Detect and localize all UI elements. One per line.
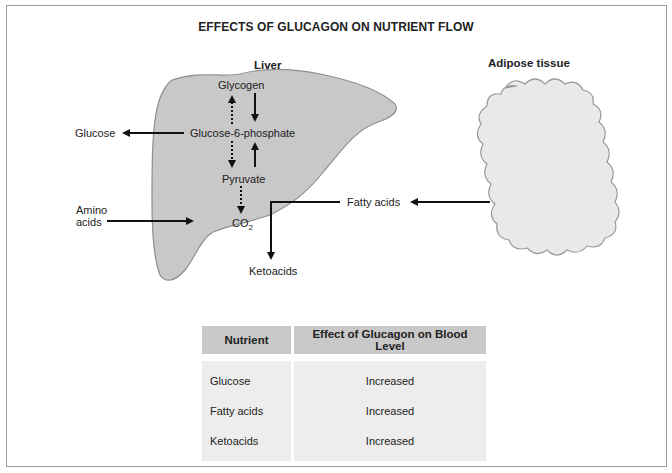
liver-label: Liver — [254, 59, 282, 71]
effect-cell: Increased — [294, 396, 486, 426]
table-row: Fatty acids Increased — [202, 396, 486, 426]
effect-cell: Increased — [294, 361, 486, 396]
ketoacids-label: Ketoacids — [249, 265, 297, 277]
effect-cell: Increased — [294, 426, 486, 461]
glucose-label: Glucose — [75, 127, 115, 139]
nutrient-cell: Ketoacids — [202, 426, 291, 461]
glucose-6-phosphate-label: Glucose-6-phosphate — [190, 127, 295, 139]
table-header-nutrient: Nutrient — [202, 326, 291, 354]
table-row: Ketoacids Increased — [202, 426, 486, 461]
liver-shape — [152, 70, 396, 281]
co2-label: CO2 — [232, 217, 253, 232]
nutrient-cell: Glucose — [202, 361, 291, 396]
adipose-tissue-label: Adipose tissue — [488, 57, 570, 69]
nutrient-effect-table: Nutrient Effect of Glucagon on Blood Lev… — [199, 326, 489, 461]
adipose-tissue-shape — [477, 79, 619, 255]
fatty-acids-to-ketoacids-arrow — [271, 202, 340, 258]
pyruvate-label: Pyruvate — [222, 173, 265, 185]
amino-acids-label-line1: Amino — [76, 204, 107, 216]
glycogen-label: Glycogen — [218, 79, 264, 91]
nutrient-cell: Fatty acids — [202, 396, 291, 426]
fatty-acids-label: Fatty acids — [347, 196, 400, 208]
table-header-effect: Effect of Glucagon on Blood Level — [294, 326, 486, 354]
amino-acids-label-line2: acids — [76, 216, 102, 228]
table-row: Glucose Increased — [202, 361, 486, 396]
